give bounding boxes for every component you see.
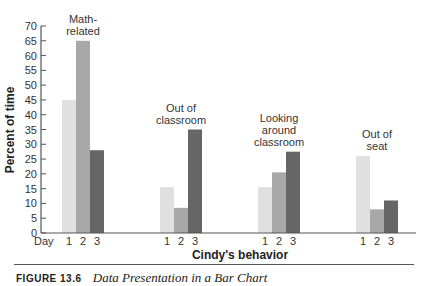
- day-tick-label: 2: [276, 235, 282, 247]
- caption-text: FIGURE 13.6 Data Presentation in a Bar C…: [16, 270, 267, 286]
- y-tick-label: 10: [25, 197, 37, 209]
- bar: [174, 208, 188, 233]
- bar: [188, 130, 202, 234]
- bar: [370, 209, 384, 233]
- day-tick-label: 2: [80, 235, 86, 247]
- day-tick-label: 1: [164, 235, 170, 247]
- day-tick-label: 3: [94, 235, 100, 247]
- bar-groups: 123Math-related123Out ofclassroom123Look…: [62, 13, 398, 247]
- bar: [286, 152, 300, 233]
- figure-caption: FIGURE 13.6 Data Presentation in a Bar C…: [0, 264, 427, 280]
- caption-divider: [14, 264, 414, 265]
- y-tick-label: 25: [25, 153, 37, 165]
- y-tick-label: 60: [25, 50, 37, 62]
- day-tick-label: 1: [360, 235, 366, 247]
- y-axis: 0510152025303540455055606570: [25, 20, 46, 239]
- day-tick-label: 2: [374, 235, 380, 247]
- bar: [62, 100, 76, 233]
- figure-number: FIGURE 13.6: [16, 273, 82, 284]
- y-tick-label: 65: [25, 35, 37, 47]
- bar-group: 123Math-related: [62, 13, 104, 247]
- category-label: Math-related: [66, 13, 100, 37]
- y-tick-label: 55: [25, 64, 37, 76]
- day-tick-label: 3: [388, 235, 394, 247]
- y-tick-label: 50: [25, 79, 37, 91]
- category-label: Lookingaroundclassroom: [254, 112, 304, 148]
- bar: [258, 187, 272, 233]
- bar: [384, 200, 398, 233]
- y-tick-label: 30: [25, 138, 37, 150]
- category-label: Out ofseat: [362, 128, 393, 152]
- y-tick-label: 15: [25, 183, 37, 195]
- bar-group: 123Out ofclassroom: [156, 102, 206, 248]
- y-tick-label: 5: [31, 212, 37, 224]
- x-axis-label: Cindy's behavior: [192, 248, 289, 262]
- day-tick-label: 3: [290, 235, 296, 247]
- day-tick-label: 1: [262, 235, 268, 247]
- bar: [90, 150, 104, 233]
- x-axis-day-label: Day: [34, 235, 54, 247]
- y-tick-label: 40: [25, 109, 37, 121]
- y-tick-label: 45: [25, 94, 37, 106]
- bar: [272, 172, 286, 233]
- bar-group: 123Out ofseat: [356, 128, 398, 247]
- bar: [356, 156, 370, 233]
- y-tick-label: 35: [25, 124, 37, 136]
- day-tick-label: 2: [178, 235, 184, 247]
- bar: [160, 187, 174, 233]
- day-tick-label: 1: [66, 235, 72, 247]
- bar-group: 123Lookingaroundclassroom: [254, 112, 304, 247]
- day-tick-label: 3: [192, 235, 198, 247]
- category-label: Out ofclassroom: [156, 102, 206, 126]
- bar: [76, 41, 90, 233]
- figure-title: Data Presentation in a Bar Chart: [93, 270, 268, 285]
- y-axis-label: Percent of time: [3, 86, 17, 173]
- y-tick-label: 20: [25, 168, 37, 180]
- y-tick-label: 70: [25, 20, 37, 32]
